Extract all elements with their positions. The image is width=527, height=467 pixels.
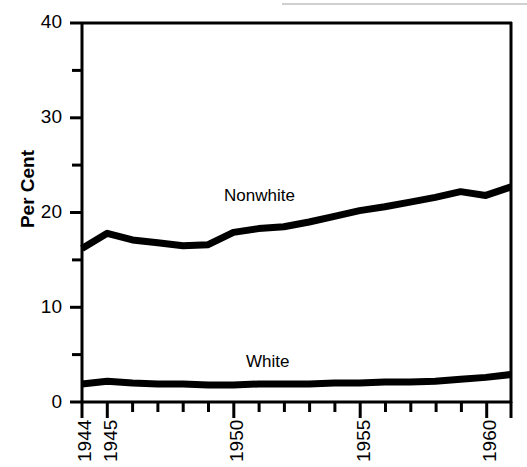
- y-tick-label-30: 30: [20, 106, 62, 128]
- data-series-layer: [82, 187, 511, 385]
- x-tick-label-1955: 1955: [353, 420, 375, 462]
- y-tick-label-0: 0: [20, 391, 62, 413]
- axis-frame: [82, 22, 512, 403]
- y-tick-label-40: 40: [20, 11, 62, 33]
- x-tick-label-1945: 1945: [100, 420, 122, 462]
- series-line-nonwhite: [82, 187, 511, 249]
- x-tick-label-1950: 1950: [226, 420, 248, 462]
- chart-plot-area: [0, 0, 527, 467]
- y-tick-label-10: 10: [20, 296, 62, 318]
- x-axis-ticks: [82, 402, 511, 418]
- series-line-white: [82, 375, 511, 385]
- y-axis-title: Per Cent: [17, 139, 39, 239]
- series-label-nonwhite: Nonwhite: [224, 186, 295, 206]
- x-tick-label-1960: 1960: [479, 420, 501, 462]
- y-axis-major-ticks: [70, 23, 82, 402]
- series-label-white: White: [246, 352, 289, 372]
- scan-artifact-top: [0, 0, 527, 2]
- chart-figure: 40 30 20 10 0 Per Cent 1944 1945 1950 19…: [0, 0, 527, 467]
- x-tick-label-1944: 1944: [74, 420, 96, 462]
